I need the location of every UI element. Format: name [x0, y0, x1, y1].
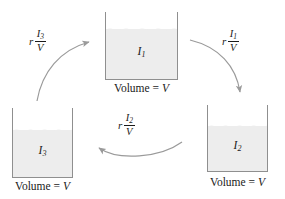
rate-numerator-subscript-flow-1-to-2: 1 — [233, 32, 237, 41]
rate-coefficient-flow-1-to-2: r — [222, 35, 226, 47]
volume-caption-bottom-left-prefix: Volume = — [15, 180, 63, 192]
rate-fraction-flow-3-to-1: I3 V — [35, 29, 46, 53]
rate-numerator-flow-2-to-3: I2 — [124, 113, 134, 125]
volume-caption-bottom-right: Volume = V — [197, 176, 278, 188]
quantity-subscript-top: 1 — [141, 50, 145, 59]
quantity-subscript-bottom-right: 2 — [237, 144, 241, 153]
diagram-canvas: I1 Volume = V I3 Volume = V I2 — [0, 0, 285, 199]
rate-numerator-flow-3-to-1: I3 — [35, 29, 45, 41]
volume-caption-bottom-left: Volume = V — [2, 180, 83, 192]
volume-caption-bottom-left-value: V — [63, 180, 70, 192]
quantity-subscript-bottom-left: 3 — [42, 149, 46, 158]
rate-numerator-subscript-flow-2-to-3: 2 — [129, 116, 133, 125]
volume-caption-bottom-right-value: V — [258, 176, 265, 188]
container-bottom-right: I2 — [207, 105, 268, 172]
volume-caption-top-value: V — [162, 82, 169, 94]
volume-caption-top: Volume = V — [105, 82, 178, 94]
rate-numerator-subscript-flow-3-to-1: 3 — [40, 32, 44, 41]
rate-label-flow-1-to-2: r I1 V — [222, 29, 239, 53]
rate-numerator-flow-1-to-2: I1 — [228, 29, 238, 41]
container-bottom-left: I3 — [12, 108, 73, 178]
rate-coefficient-flow-3-to-1: r — [29, 35, 33, 47]
rate-fraction-flow-2-to-3: I2 V — [124, 113, 135, 137]
volume-caption-bottom-right-prefix: Volume = — [210, 176, 258, 188]
rate-denominator-flow-1-to-2: V — [229, 42, 238, 53]
container-top: I1 — [105, 12, 178, 80]
volume-caption-top-prefix: Volume = — [114, 82, 162, 94]
arrow-flow-2-to-3 — [99, 142, 182, 156]
container-bottom-left-quantity-label: I3 — [12, 144, 73, 158]
rate-denominator-flow-2-to-3: V — [125, 126, 134, 137]
rate-label-flow-3-to-1: r I3 V — [29, 29, 46, 53]
container-top-quantity-label: I1 — [105, 45, 178, 59]
rate-fraction-flow-1-to-2: I1 V — [228, 29, 239, 53]
rate-coefficient-flow-2-to-3: r — [118, 119, 122, 131]
rate-label-flow-2-to-3: r I2 V — [118, 113, 135, 137]
container-bottom-right-quantity-label: I2 — [207, 139, 268, 153]
rate-denominator-flow-3-to-1: V — [36, 42, 45, 53]
